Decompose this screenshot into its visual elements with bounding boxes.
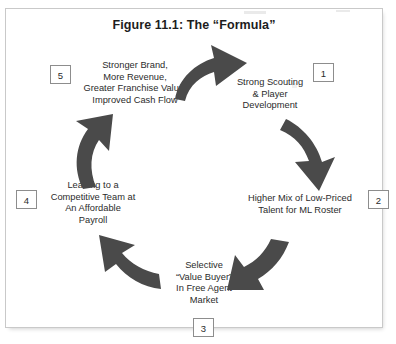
arrow-5-to-1-icon bbox=[173, 44, 249, 102]
arrow-4-to-5-icon bbox=[63, 113, 127, 191]
node-number-box-3: 3 bbox=[193, 318, 214, 337]
arrow-2-to-3-icon bbox=[225, 238, 293, 300]
node-number-box-4: 4 bbox=[16, 190, 37, 209]
node-number-box-1: 1 bbox=[313, 63, 334, 82]
scan-artifact bbox=[336, 10, 350, 12]
figure-title: Figure 11.1: The “Formula” bbox=[6, 18, 382, 32]
node-label-2: Higher Mix of Low-Priced Talent for ML R… bbox=[238, 193, 362, 216]
scan-artifact bbox=[244, 11, 266, 14]
node-number-box-5: 5 bbox=[50, 65, 71, 84]
arrow-1-to-2-icon bbox=[267, 117, 337, 193]
figure-frame: Figure 11.1: The “Formula” Stronger Bran… bbox=[5, 8, 383, 328]
arrow-3-to-4-icon bbox=[91, 233, 163, 295]
node-number-box-2: 2 bbox=[368, 190, 389, 209]
